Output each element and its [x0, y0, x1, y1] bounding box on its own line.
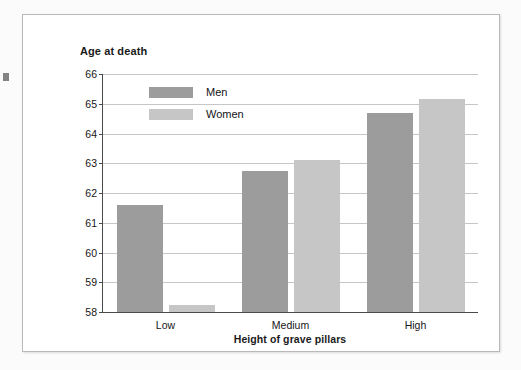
y-tick-mark: [99, 193, 103, 194]
legend-item-women: Women: [149, 105, 244, 123]
legend-label-women: Women: [206, 108, 244, 120]
page-edge-mark: [3, 73, 9, 81]
legend-swatch-women-icon: [149, 109, 193, 120]
legend-label-men: Men: [206, 86, 227, 98]
legend-swatch-men-icon: [149, 87, 193, 98]
bar-high-women: [419, 99, 465, 312]
y-tick-label: 65: [85, 98, 97, 110]
y-tick-label: 61: [85, 217, 97, 229]
y-tick-mark: [99, 74, 103, 75]
x-category-label-medium: Medium: [272, 319, 309, 331]
y-tick-mark: [99, 104, 103, 105]
bar-high-men: [367, 113, 413, 312]
bar-low-men: [117, 205, 163, 312]
bar-medium-men: [242, 171, 288, 312]
figure-frame: Age at death 666564636261605958LowMedium…: [22, 14, 500, 352]
y-tick-label: 60: [85, 247, 97, 259]
bar-medium-women: [294, 160, 340, 312]
scanned-page: Age at death 666564636261605958LowMedium…: [0, 0, 521, 370]
y-tick-mark: [99, 312, 103, 313]
gridline: [103, 74, 478, 75]
y-tick-label: 63: [85, 157, 97, 169]
y-tick-label: 58: [85, 306, 97, 318]
chart-legend: Men Women: [149, 83, 244, 127]
y-tick-mark: [99, 282, 103, 283]
y-tick-mark: [99, 253, 103, 254]
y-tick-label: 59: [85, 276, 97, 288]
y-tick-mark: [99, 163, 103, 164]
x-category-label-low: Low: [156, 319, 175, 331]
y-tick-mark: [99, 134, 103, 135]
bar-low-women: [169, 305, 215, 312]
x-category-label-high: High: [405, 319, 427, 331]
y-tick-label: 64: [85, 128, 97, 140]
x-axis-title: Height of grave pillars: [102, 333, 478, 345]
y-tick-mark: [99, 223, 103, 224]
legend-item-men: Men: [149, 83, 244, 101]
y-axis-title: Age at death: [80, 45, 147, 57]
y-tick-label: 66: [85, 68, 97, 80]
y-tick-label: 62: [85, 187, 97, 199]
